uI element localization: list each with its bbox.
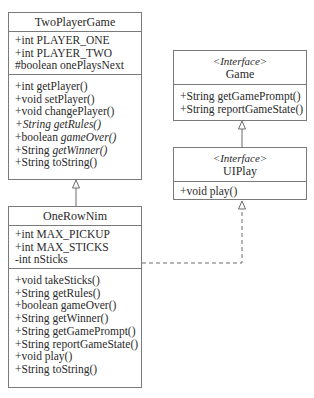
triangle-arrowhead-icon xyxy=(239,201,246,209)
method: +String toString() xyxy=(9,363,141,376)
method: +int getPlayer() xyxy=(9,80,141,93)
method: +void takeSticks() xyxy=(9,274,141,287)
class-name-text: TwoPlayerGame xyxy=(35,15,115,29)
attribute: -int nSticks xyxy=(9,253,141,266)
method: +boolean gameOver() xyxy=(9,299,141,312)
interface-game: <Interface> Game +String getGamePrompt()… xyxy=(173,50,307,121)
method: +boolean gameOver() xyxy=(9,131,141,144)
class-name: OneRowNim xyxy=(9,207,141,226)
class-twoplayergame: TwoPlayerGame +int PLAYER_ONE +int PLAYE… xyxy=(8,12,142,180)
interface-uiplay: <Interface> UIPlay +void play() xyxy=(173,147,307,200)
method: +String getRules() xyxy=(9,118,141,131)
attributes-section: +int MAX_PICKUP +int MAX_STICKS -int nSt… xyxy=(9,226,141,269)
methods-section: +String getGamePrompt() +String reportGa… xyxy=(174,85,306,115)
method: +String reportGameState() xyxy=(174,103,306,116)
methods-section: +int getPlayer() +void setPlayer() +void… xyxy=(9,75,141,169)
class-name-text: OneRowNim xyxy=(43,209,107,223)
attribute: +int MAX_PICKUP xyxy=(9,228,141,241)
method: +void setPlayer() xyxy=(9,93,141,106)
attribute: +int PLAYER_TWO xyxy=(9,47,141,60)
interface-header: <Interface> UIPlay xyxy=(174,148,306,182)
interface-name: Game xyxy=(174,68,306,81)
methods-section: +void play() xyxy=(174,182,306,198)
method: +String getWinner() xyxy=(9,144,141,157)
triangle-arrowhead-icon xyxy=(239,121,246,129)
method: +void changePlayer() xyxy=(9,105,141,118)
method: +String toString() xyxy=(9,156,141,169)
method: +String reportGameState() xyxy=(9,338,141,351)
attribute: #boolean onePlaysNext xyxy=(9,59,141,72)
triangle-arrowhead-icon xyxy=(73,180,80,188)
realization-line-onerownim-uiplay xyxy=(142,209,242,263)
interface-header: <Interface> Game xyxy=(174,51,306,85)
class-onerownim: OneRowNim +int MAX_PICKUP +int MAX_STICK… xyxy=(8,206,142,388)
method: +void play() xyxy=(174,185,306,198)
attributes-section: +int PLAYER_ONE +int PLAYER_TWO #boolean… xyxy=(9,32,141,75)
attribute: +int MAX_STICKS xyxy=(9,241,141,254)
method: +void play() xyxy=(9,350,141,363)
method: +String getWinner() xyxy=(9,312,141,325)
method: +String getGamePrompt() xyxy=(174,90,306,103)
interface-name: UIPlay xyxy=(174,165,306,178)
method: +String getRules() xyxy=(9,287,141,300)
attribute: +int PLAYER_ONE xyxy=(9,34,141,47)
methods-section: +void takeSticks() +String getRules() +b… xyxy=(9,269,141,376)
class-name: TwoPlayerGame xyxy=(9,13,141,32)
method: +String getGamePrompt() xyxy=(9,325,141,338)
